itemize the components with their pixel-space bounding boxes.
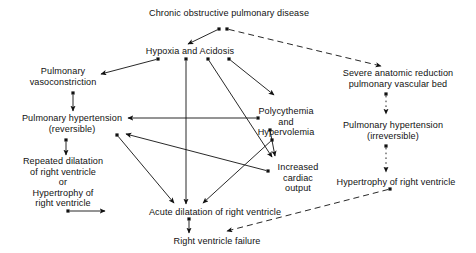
edge-origin-dot-polycythemia-to-increased-output [268,128,271,131]
edge-origin-dot-pht-reversible-to-repeated-dilatation [64,138,67,141]
diagram-canvas: Chronic obstructive pulmonary diseaseHyp… [0,0,476,253]
edge-origin-dot-increased-output-to-pht-reversible [266,169,269,172]
edge-origin-dot-acute-dilatation-to-rv-failure [187,217,190,220]
edge-origin-dot-copd-to-hypoxia [217,27,220,30]
edge-origin-dot-hypoxia-to-acute-dilatation [184,57,187,60]
edge-polycythemia-to-acute-dilatation [203,141,271,203]
edge-layer [0,0,476,253]
edge-origin-dot-copd-to-severe-reduction [225,27,228,30]
edge-copd-to-hypoxia [188,30,217,44]
edges-group [64,27,391,233]
edge-pht-reversible-to-acute-dilatation [118,136,174,203]
edge-origin-dot-pht-irreversible-to-hypertrophy-rv [384,144,387,147]
edge-origin-dot-hypertrophy-rv-to-rv-failure [388,187,391,190]
edge-polycythemia-to-increased-output [270,132,275,156]
edge-origin-dot-hypoxia-to-increased-output [206,57,209,60]
edge-origin-dot-hypoxia-to-vasoconstriction [156,57,159,60]
edge-origin-dot-hypoxia-to-polycythemia [227,57,230,60]
edge-origin-dot-severe-reduction-to-pht-irreversible [384,92,387,95]
edge-hypoxia-to-vasoconstriction [101,59,156,74]
edge-hypertrophy-rv-to-rv-failure [227,189,388,231]
edge-origin-dot-acute-dilatation-from-left [66,209,69,212]
edge-origin-dot-pht-reversible-to-acute-dilatation [115,133,118,136]
edge-increased-output-to-pht-reversible [126,134,266,171]
edge-hypoxia-to-increased-output [209,61,272,157]
edge-origin-dot-polycythemia-to-acute-dilatation [270,138,273,141]
edge-origin-dot-polycythemia-to-pht-reversible [256,116,259,119]
edge-hypoxia-to-polycythemia [230,60,274,95]
edge-copd-to-severe-reduction [229,29,381,66]
edge-origin-dot-vasoconstriction-to-pht-reversible [71,91,74,94]
